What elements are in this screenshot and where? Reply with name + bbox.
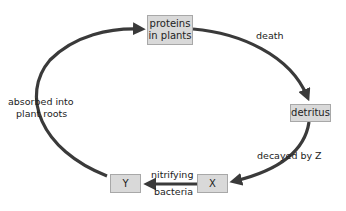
node-detritus-label: detritus <box>291 107 330 119</box>
node-x: X <box>197 174 228 193</box>
node-proteins-line2: in plants <box>148 30 191 42</box>
edge-label-bacteria: bacteria <box>154 186 193 198</box>
node-y-label: Y <box>122 178 128 190</box>
node-proteins-in-plants: proteins in plants <box>147 15 193 45</box>
arrow-death <box>193 29 307 96</box>
node-detritus: detritus <box>290 104 331 122</box>
nitrogen-cycle-diagram: proteins in plants detritus X Y death de… <box>0 0 346 211</box>
edge-label-plant-roots: plant roots <box>16 108 67 120</box>
node-proteins-line1: proteins <box>150 18 191 30</box>
edge-label-decayed-by-z: decayed by Z <box>257 150 322 162</box>
edge-label-death: death <box>256 30 283 42</box>
node-x-label: X <box>209 178 216 190</box>
node-y: Y <box>110 174 141 193</box>
edge-label-absorbed-into: absorbed into <box>8 96 74 108</box>
edge-label-nitrifying: nitrifying <box>151 169 193 181</box>
